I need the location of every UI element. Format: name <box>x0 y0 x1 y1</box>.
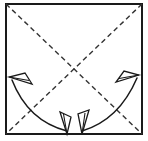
diagram-canvas <box>0 0 148 141</box>
origami-fold-diagram <box>0 0 148 141</box>
